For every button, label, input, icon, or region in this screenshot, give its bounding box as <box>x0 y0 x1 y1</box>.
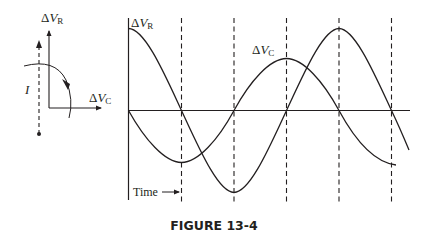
vc-waveform <box>129 59 397 166</box>
graph-vr-label: ΔVR <box>131 15 153 31</box>
time-label: Time <box>133 185 158 199</box>
figure-13-4: ΔVR ΔVC I ΔVR ΔVC Time <box>0 0 429 236</box>
phasor-diagram: ΔVR ΔVC I <box>24 10 111 136</box>
phasor-vc-label: ΔVC <box>89 90 111 106</box>
origin-dot-icon <box>37 132 41 136</box>
figure-caption: FIGURE 13-4 <box>170 218 258 233</box>
waveform-graph: ΔVR ΔVC Time <box>128 15 410 203</box>
rotation-arc <box>24 64 71 118</box>
phasor-vr-label: ΔVR <box>41 10 63 26</box>
graph-vc-label: ΔVC <box>252 42 274 58</box>
current-arrowhead-icon <box>36 40 42 48</box>
phasor-current-label: I <box>24 82 30 97</box>
